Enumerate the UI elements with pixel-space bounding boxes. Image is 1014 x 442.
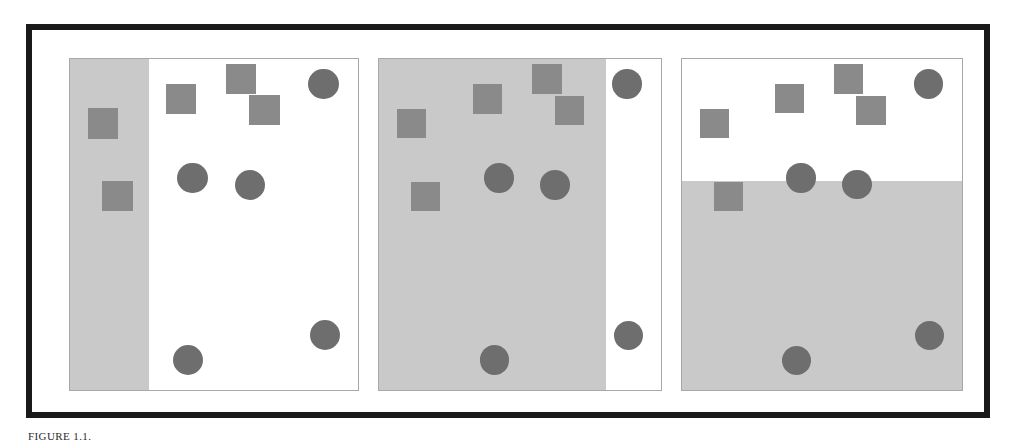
figure-caption: FIGURE 1.1.	[28, 430, 988, 442]
data-point-square-s1	[88, 108, 118, 138]
data-point-square-s2	[473, 84, 503, 114]
data-point-circle-c1	[308, 69, 338, 99]
data-point-square-s5	[411, 182, 441, 212]
data-point-circle-c4	[614, 321, 644, 351]
data-point-circle-c1	[612, 69, 642, 99]
data-point-circle-c4	[310, 320, 340, 350]
data-point-circle-c5	[173, 345, 203, 375]
data-point-square-s2	[166, 84, 196, 114]
data-point-square-s3	[532, 64, 562, 94]
data-point-circle-c2	[177, 163, 207, 193]
chart-panel-2	[378, 58, 662, 391]
data-point-circle-c3	[235, 170, 265, 200]
data-point-circle-c1	[914, 69, 943, 98]
data-point-square-s2	[775, 84, 804, 113]
shaded-region-panel-3	[682, 181, 962, 390]
figure-caption-label: FIGURE 1.1.	[28, 430, 91, 442]
data-point-circle-c2	[786, 163, 815, 192]
data-point-square-s3	[226, 64, 256, 94]
chart-panel-1	[69, 58, 359, 391]
chart-panel-3	[681, 58, 963, 391]
data-point-square-s5	[714, 182, 743, 211]
data-point-square-s4	[555, 96, 585, 126]
data-point-circle-c3	[540, 170, 570, 200]
data-point-square-s1	[700, 109, 729, 138]
data-point-square-s5	[102, 181, 132, 211]
panel-row	[69, 58, 963, 391]
data-point-square-s4	[249, 95, 279, 125]
data-point-circle-c2	[484, 163, 514, 193]
data-point-circle-c3	[842, 170, 871, 199]
data-point-square-s4	[856, 96, 885, 125]
data-point-square-s1	[397, 109, 427, 139]
figure-frame	[26, 24, 990, 418]
data-point-square-s3	[834, 64, 863, 93]
